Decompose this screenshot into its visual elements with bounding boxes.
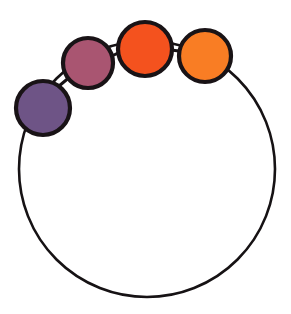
node-orange[interactable] [179,30,231,82]
node-magenta[interactable] [63,38,113,88]
node-purple[interactable] [16,81,70,135]
node-red-orange[interactable] [118,22,172,76]
circle-node-diagram [0,0,291,314]
diagram-canvas [0,0,291,314]
